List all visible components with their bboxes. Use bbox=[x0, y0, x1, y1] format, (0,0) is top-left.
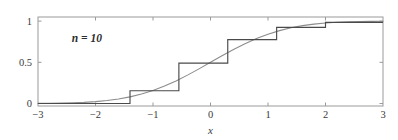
y-tick-label: 0 bbox=[27, 98, 32, 109]
chart-background bbox=[0, 0, 398, 140]
x-tick-label: 1 bbox=[265, 109, 270, 120]
x-tick-label: 0 bbox=[208, 109, 213, 120]
x-tick-label: −2 bbox=[90, 109, 101, 120]
sample-size-annotation: n = 10 bbox=[72, 32, 102, 44]
cdf-comparison-chart: −3−2−10123 00.51 n = 10 x bbox=[0, 0, 398, 140]
x-tick-label: 3 bbox=[380, 109, 385, 120]
figure-container: −3−2−10123 00.51 n = 10 x bbox=[0, 0, 398, 140]
x-tick-label: −1 bbox=[147, 109, 158, 120]
x-axis-title: x bbox=[207, 124, 213, 136]
x-tick-label: −3 bbox=[32, 109, 43, 120]
y-tick-label: 1 bbox=[27, 16, 32, 27]
y-tick-label: 0.5 bbox=[19, 57, 32, 68]
x-tick-label: 2 bbox=[323, 109, 328, 120]
